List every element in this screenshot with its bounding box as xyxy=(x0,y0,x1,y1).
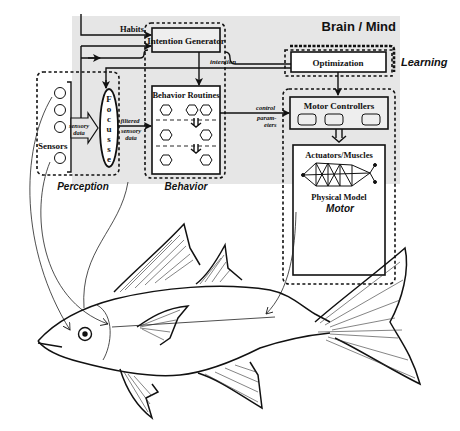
filtered-label: filtered xyxy=(120,117,140,124)
svg-text:c: c xyxy=(107,114,111,124)
intention-generator-label: Intention Generator xyxy=(147,36,225,46)
perception-label: Perception xyxy=(57,181,109,192)
svg-text:F: F xyxy=(106,94,112,104)
svg-text:s: s xyxy=(107,144,111,154)
control-label: control xyxy=(256,104,275,111)
behavior-label: Behavior xyxy=(165,181,209,192)
physical-model-label: Physical Model xyxy=(311,192,367,202)
svg-text:e: e xyxy=(107,154,111,164)
eters-label: eters xyxy=(264,121,277,128)
filtered-data-label: data xyxy=(125,134,137,141)
brain-fish-diagram: Brain / Mind Sensors sensory data F o c … xyxy=(0,0,460,431)
optimization-label: Optimization xyxy=(313,58,364,68)
motor-module: Motor Controllers Actuators/Muscles Phys… xyxy=(283,89,395,284)
behavior-routines-label: Behavior Routines xyxy=(152,90,220,100)
motor-controllers-label: Motor Controllers xyxy=(304,101,375,111)
intention-label: intention xyxy=(210,58,236,66)
brain-mind-title: Brain / Mind xyxy=(322,19,396,34)
svg-text:o: o xyxy=(107,104,112,114)
habits-label: Habits xyxy=(120,24,145,34)
actuators-label: Actuators/Muscles xyxy=(305,150,373,160)
behavior-module: Intention Generator Behavior Routines Be… xyxy=(145,23,225,192)
svg-text:s: s xyxy=(107,134,111,144)
dorsal-fin-2 xyxy=(196,245,242,284)
pelvic-fin xyxy=(120,369,158,418)
data-label: data xyxy=(73,129,85,136)
sensory-label: sensory xyxy=(68,122,89,129)
motor-label: Motor xyxy=(326,203,355,214)
learning-label: Learning xyxy=(401,56,448,68)
parameters-label: param- xyxy=(256,114,277,121)
svg-text:u: u xyxy=(106,124,111,134)
sensor-circles xyxy=(55,88,66,164)
sensors-label: Sensors xyxy=(38,141,68,151)
filtered-sensory-label: sensory xyxy=(120,127,141,134)
